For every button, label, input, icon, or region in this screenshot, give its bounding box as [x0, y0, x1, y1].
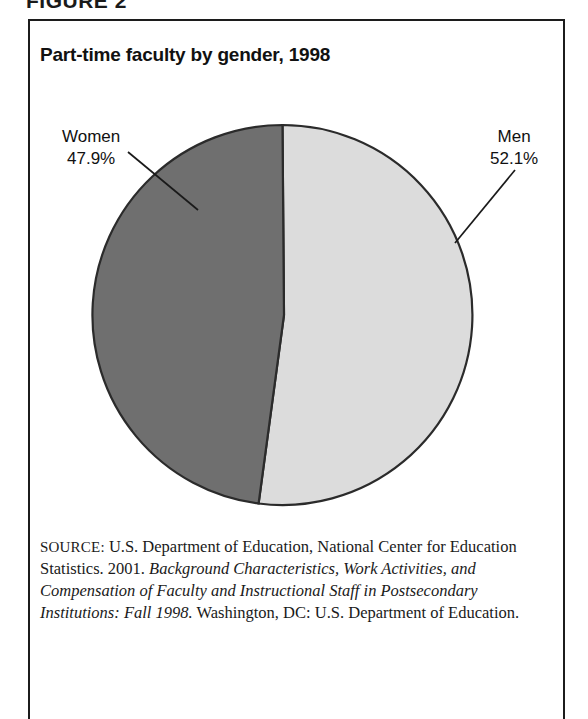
pie-slice-women: [92, 125, 284, 504]
pie-label-men-value: 52.1%: [490, 148, 538, 170]
source-label: SOURCE:: [40, 539, 105, 555]
pie-label-women-value: 47.9%: [62, 148, 120, 170]
pie-label-men-name: Men: [498, 127, 531, 146]
source-text-after: Washington, DC: U.S. Department of Educa…: [193, 603, 520, 622]
leader-line-men: [455, 170, 515, 243]
pie-label-women: Women 47.9%: [62, 126, 120, 171]
pie-label-men: Men 52.1%: [490, 126, 538, 171]
pie-slice-men: [259, 125, 473, 505]
pie-label-women-name: Women: [62, 127, 120, 146]
source-citation: SOURCE: U.S. Department of Education, Na…: [40, 536, 548, 624]
